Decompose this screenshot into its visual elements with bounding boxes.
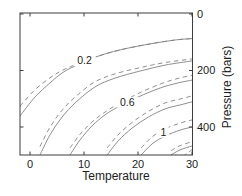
- contour-line-0.8-solid: [107, 102, 192, 155]
- x-axis-title: Temperature: [0, 169, 232, 183]
- y-tick-label: 200: [197, 64, 215, 76]
- contour-figure: 0.20.6101020300200400 Temperature Pressu…: [0, 0, 242, 196]
- contour-label: 0.2: [77, 54, 92, 66]
- y-tick-label: 0: [197, 8, 203, 20]
- contour-line-1.4-dashed: [183, 150, 192, 157]
- contour-line-0.6-dashed: [70, 75, 192, 148]
- contour-plot: 0.20.6101020300200400: [0, 0, 242, 196]
- contour-label: 0.6: [120, 96, 135, 108]
- y-tick-label: 400: [197, 121, 215, 133]
- contour-line-1.2-solid: [171, 146, 192, 155]
- contour-line-0.2-dashed: [20, 39, 192, 107]
- y-axis-title: Pressure (bars): [220, 46, 234, 129]
- contour-label: 1: [160, 126, 166, 138]
